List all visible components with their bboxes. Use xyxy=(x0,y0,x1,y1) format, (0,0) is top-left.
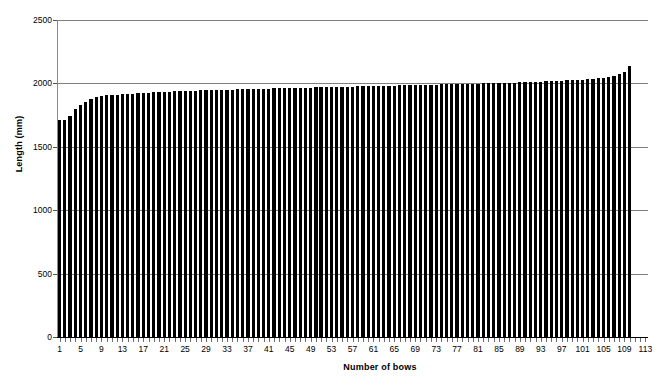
x-tick-mark xyxy=(619,338,620,342)
x-tick-mark xyxy=(248,338,249,342)
bar xyxy=(84,102,87,337)
bar xyxy=(445,84,448,337)
bar xyxy=(267,89,270,337)
bar xyxy=(116,95,119,337)
bar xyxy=(194,91,197,337)
x-tick-mark xyxy=(520,338,521,342)
bar xyxy=(435,85,438,337)
x-tick-mark xyxy=(60,338,61,342)
bar xyxy=(602,78,605,337)
bar xyxy=(618,74,621,337)
x-tick-mark xyxy=(447,338,448,342)
x-tick-mark xyxy=(640,338,641,342)
x-tick-mark xyxy=(237,338,238,342)
x-tick-mark xyxy=(488,338,489,342)
x-tick-mark xyxy=(342,338,343,342)
bar xyxy=(508,83,511,337)
bar xyxy=(476,84,479,337)
x-tick-mark xyxy=(494,338,495,342)
bar xyxy=(68,116,71,337)
x-tick-mark xyxy=(316,338,317,342)
bar xyxy=(105,95,108,337)
x-tick-mark xyxy=(75,338,76,342)
bar xyxy=(523,82,526,337)
x-tick-mark xyxy=(530,338,531,342)
bar xyxy=(492,83,495,337)
bar xyxy=(330,87,333,337)
x-tick-mark xyxy=(217,338,218,342)
y-tick-label: 1500 xyxy=(18,142,52,151)
bar xyxy=(513,83,516,337)
x-tick-mark xyxy=(358,338,359,342)
x-tick-mark xyxy=(279,338,280,342)
y-tick-label: 500 xyxy=(18,269,52,278)
bar xyxy=(272,88,275,337)
x-tick-mark xyxy=(274,338,275,342)
y-tick-label: 0 xyxy=(18,333,52,342)
bar xyxy=(466,84,469,337)
x-tick-mark xyxy=(227,338,228,342)
bar xyxy=(361,86,364,337)
x-tick-mark xyxy=(389,338,390,342)
x-tick-mark xyxy=(264,338,265,342)
bar xyxy=(518,82,521,337)
x-tick-mark xyxy=(452,338,453,342)
bar xyxy=(236,89,239,337)
bar xyxy=(408,85,411,337)
x-tick-mark xyxy=(196,338,197,342)
x-tick-mark xyxy=(91,338,92,342)
bar xyxy=(387,86,390,337)
x-tick-mark xyxy=(290,338,291,342)
x-tick-mark xyxy=(86,338,87,342)
bar xyxy=(607,77,610,337)
x-tick-mark xyxy=(154,338,155,342)
bar xyxy=(215,90,218,337)
bar xyxy=(100,96,103,337)
bar xyxy=(450,84,453,337)
x-tick-mark xyxy=(122,338,123,342)
bar xyxy=(482,83,485,337)
x-tick-mark xyxy=(285,338,286,342)
plot-area xyxy=(57,20,648,337)
x-tick-mark xyxy=(583,338,584,342)
x-tick-mark xyxy=(614,338,615,342)
x-tick-mark xyxy=(201,338,202,342)
bar xyxy=(168,92,171,337)
bar xyxy=(550,81,553,337)
bar xyxy=(576,80,579,337)
x-tick-mark xyxy=(588,338,589,342)
bar xyxy=(571,80,574,337)
bar xyxy=(429,85,432,337)
x-tick-mark xyxy=(258,338,259,342)
bar xyxy=(178,91,181,337)
x-tick-mark xyxy=(128,338,129,342)
x-tick-mark xyxy=(347,338,348,342)
bar xyxy=(309,88,312,337)
x-tick-mark xyxy=(117,338,118,342)
bar xyxy=(544,81,547,337)
x-tick-mark xyxy=(420,338,421,342)
bar xyxy=(304,88,307,337)
x-tick-mark xyxy=(405,338,406,342)
x-tick-mark xyxy=(232,338,233,342)
bar xyxy=(204,90,207,337)
x-tick-mark xyxy=(243,338,244,342)
x-tick-mark xyxy=(81,338,82,342)
y-tick-label: 2500 xyxy=(18,16,52,25)
bar xyxy=(314,87,317,337)
x-tick-mark xyxy=(112,338,113,342)
bar xyxy=(252,89,255,337)
bar xyxy=(377,86,380,337)
bar xyxy=(173,91,176,337)
x-tick-mark xyxy=(175,338,176,342)
bar xyxy=(110,95,113,337)
bar xyxy=(351,87,354,337)
bar xyxy=(262,89,265,337)
x-tick-mark xyxy=(457,338,458,342)
x-tick-mark xyxy=(185,338,186,342)
bar xyxy=(325,87,328,337)
x-tick-label: 113 xyxy=(633,344,657,355)
bar xyxy=(628,66,631,337)
x-tick-mark xyxy=(436,338,437,342)
bar xyxy=(591,79,594,337)
